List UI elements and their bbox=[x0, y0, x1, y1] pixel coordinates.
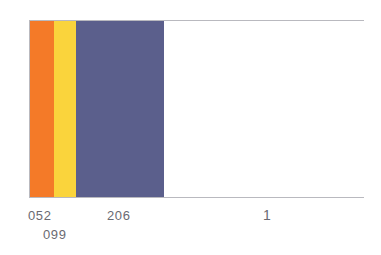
tick-label-layer: 0520992061 bbox=[0, 0, 381, 255]
tick-label-1: 1 bbox=[263, 208, 271, 222]
tick-label-206: 206 bbox=[107, 209, 131, 222]
tick-label-099: 099 bbox=[43, 228, 67, 241]
color-band-figure: 0520992061 bbox=[0, 0, 381, 255]
tick-label-052: 052 bbox=[28, 209, 52, 222]
